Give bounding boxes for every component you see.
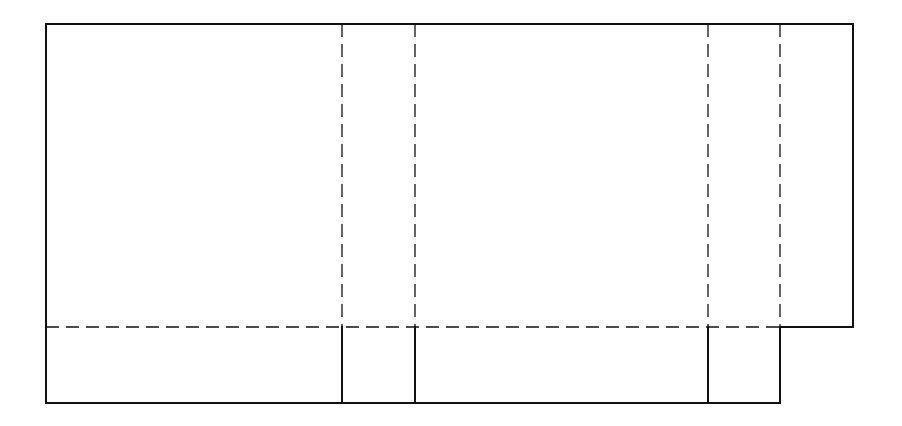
outer-cut-outline	[46, 24, 853, 403]
box-net-diagram	[0, 0, 902, 426]
box-net-svg	[0, 0, 902, 426]
